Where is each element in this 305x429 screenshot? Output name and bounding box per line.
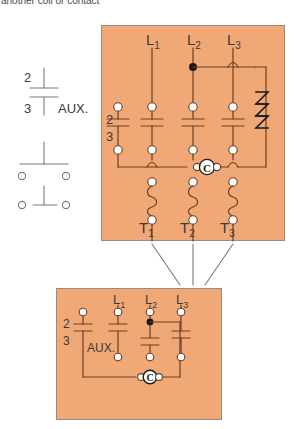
control-circuit-graphic: C [0, 0, 305, 429]
lower-aux-terminal-2-label: 2 [63, 317, 70, 331]
lower-line-label-l2: L2 [145, 292, 157, 310]
lower-aux-terminal-3-label: 3 [63, 334, 70, 348]
lower-coil-label: C [146, 372, 153, 383]
lower-aux-label: AUX. [87, 341, 115, 355]
lower-line-label-l1: L1 [113, 292, 125, 310]
lower-line-label-l3: L3 [176, 292, 188, 310]
